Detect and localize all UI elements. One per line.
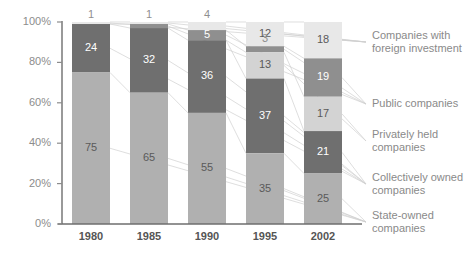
legend-entry-label: State-owned [372, 209, 434, 221]
x-axis-label: 1995 [253, 230, 277, 242]
bar-value-label: 32 [143, 53, 155, 65]
segment-link-line [110, 24, 130, 28]
x-axis-label: 1985 [137, 230, 161, 242]
bar-value-label: 4 [204, 8, 210, 20]
bar-segment [246, 46, 284, 52]
bar-value-label: 21 [317, 145, 329, 157]
legend-entry-label: companies [372, 184, 426, 196]
chart-canvas: 0%20%40%60%80%100% 19801985199019952002 … [0, 0, 467, 264]
legend-entry-label: companies [372, 141, 426, 153]
legend-entry-label: companies [372, 222, 426, 234]
bar-value-label: 36 [201, 69, 213, 81]
x-axis-label: 1980 [79, 230, 103, 242]
bar-segment [130, 24, 168, 28]
x-axis-label: 2002 [311, 230, 335, 242]
bar-value-label: 1 [88, 8, 94, 20]
bar-value-label: 19 [317, 70, 329, 82]
segment-link-line [284, 46, 304, 58]
y-tick-label: 60% [29, 96, 51, 108]
x-axis-category-labels: 19801985199019952002 [79, 230, 335, 242]
bar-value-label: 55 [201, 161, 213, 173]
segment-link-line [168, 93, 188, 113]
y-tick-label: 80% [29, 55, 51, 67]
bar-value-label: 3 [262, 32, 268, 44]
bar-segment [72, 22, 110, 24]
legend-entry-label: Companies with [372, 29, 450, 41]
segment-link-line [284, 52, 304, 96]
x-axis-label: 1990 [195, 230, 219, 242]
bar-value-label: 75 [85, 141, 97, 153]
y-tick-label: 20% [29, 177, 51, 189]
stacked-bar-chart: 0%20%40%60%80%100% 19801985199019952002 … [0, 0, 467, 264]
bar-value-label: 35 [259, 182, 271, 194]
legend-entry-label: foreign investment [372, 42, 462, 54]
bar-value-label: 13 [259, 58, 271, 70]
y-tick-label: 40% [29, 136, 51, 148]
bar-value-label: 24 [85, 41, 97, 53]
bar-value-label: 65 [143, 151, 155, 163]
bar-value-label: 17 [317, 107, 329, 119]
y-axis-tick-labels: 0%20%40%60%80%100% [23, 15, 62, 229]
segment-link-line [284, 153, 304, 173]
y-tick-label: 100% [23, 15, 51, 27]
legend-entry-label: Privately held [372, 128, 438, 140]
bar-value-label: 18 [317, 33, 329, 45]
legend-entry-label: Public companies [372, 97, 459, 109]
bar-value-label: 5 [204, 28, 210, 40]
legend-entry-label: Collectively owned [372, 171, 463, 183]
y-tick-label: 0% [35, 217, 51, 229]
segment-link-line [110, 73, 130, 93]
bars-layer [72, 22, 342, 224]
legend-leader-line [342, 114, 366, 141]
bar-value-label: 25 [317, 192, 329, 204]
bar-segment [130, 22, 168, 24]
bar-value-label: 37 [259, 109, 271, 121]
chart-legend: Companies withforeign investmentPublic c… [372, 29, 463, 234]
bar-value-label: 1 [146, 8, 152, 20]
